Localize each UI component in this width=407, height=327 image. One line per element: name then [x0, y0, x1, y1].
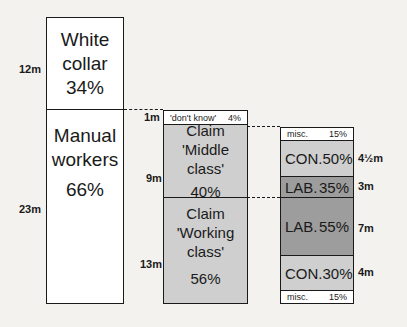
segment-title: Manual — [52, 124, 119, 148]
lab-middle-segment: LAB. 35% — [281, 177, 353, 198]
size-label: 13m — [140, 258, 162, 270]
misc-segment-top: misc. 15% — [281, 128, 353, 141]
segment-percent: 50% — [323, 150, 353, 167]
party-label: misc. — [287, 292, 308, 302]
segment-title: 'Working class' — [164, 223, 247, 261]
party-label: CON. — [285, 150, 323, 167]
size-label: 4½m — [358, 152, 383, 164]
occupation-column: White collar 34% Manual workers 66% — [46, 17, 124, 304]
white-collar-segment: White collar 34% — [47, 18, 123, 110]
size-label: 7m — [358, 222, 374, 234]
segment-title: Claim — [164, 204, 247, 223]
size-label: 3m — [358, 180, 374, 192]
segment-title: collar — [61, 52, 110, 76]
middle-class-segment: Claim 'Middle class' 40% — [164, 125, 247, 198]
segment-percent: 66% — [52, 178, 119, 202]
segment-title: White — [61, 28, 110, 52]
segment-title: workers — [52, 148, 119, 172]
size-label: 12m — [19, 63, 41, 75]
size-label: 9m — [146, 172, 162, 184]
connector-line — [247, 126, 280, 127]
segment-title: Claim — [164, 121, 247, 140]
segment-title: 'Middle class' — [164, 140, 247, 178]
party-label: LAB. — [285, 179, 318, 196]
size-label: 23m — [19, 203, 41, 215]
segment-percent: 56% — [164, 269, 247, 288]
misc-segment-bottom: misc. 15% — [281, 291, 353, 303]
size-label: 4m — [358, 266, 374, 278]
con-working-segment: CON. 30% — [281, 256, 353, 291]
working-class-segment: Claim 'Working class' 56% — [164, 198, 247, 303]
party-label: misc. — [287, 129, 308, 139]
connector-line — [247, 197, 280, 198]
lab-working-segment: LAB. 55% — [281, 198, 353, 256]
segment-percent: 34% — [61, 76, 110, 100]
party-label: LAB. — [285, 218, 318, 235]
segment-percent: 15% — [329, 292, 347, 302]
segment-percent: 35% — [319, 179, 349, 196]
segment-percent: 30% — [323, 265, 353, 282]
con-middle-segment: CON. 50% — [281, 141, 353, 177]
connector-line — [124, 109, 163, 110]
self-identification-column: 'don't know' 4% Claim 'Middle class' 40%… — [163, 110, 248, 304]
segment-percent: 15% — [329, 129, 347, 139]
size-label: 1m — [144, 111, 160, 123]
party-label: CON. — [285, 265, 323, 282]
vote-column: misc. 15% CON. 50% LAB. 35% LAB. 55% CON… — [280, 127, 354, 304]
segment-percent: 55% — [319, 218, 349, 235]
manual-workers-segment: Manual workers 66% — [47, 110, 123, 303]
